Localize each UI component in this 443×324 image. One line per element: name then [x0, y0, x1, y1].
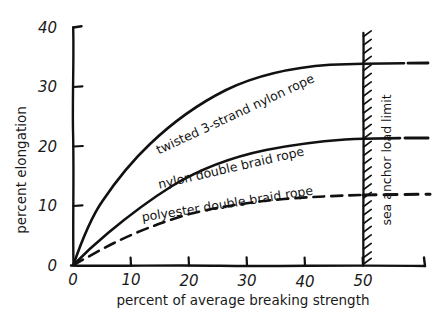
y-tick-label-0: 0 — [47, 257, 57, 275]
rope-elongation-chart: 40 30 20 10 0 0 10 20 30 40 50 percent o… — [0, 0, 443, 324]
chart-figure: 40 30 20 10 0 0 10 20 30 40 50 percent o… — [0, 0, 443, 324]
curve-twisted-3-strand-plateau — [363, 63, 404, 64]
limit-hatching — [364, 31, 372, 264]
y-axis-title: percent elongation — [13, 106, 29, 234]
sea-anchor-load-limit-label: sea anchor load limit — [379, 94, 394, 225]
x-tick-label-0: 0 — [68, 271, 78, 289]
curve-label-nylon-double-braid-rope: nylon double braid rope — [157, 143, 306, 191]
axis-lines — [71, 26, 425, 266]
y-tick-label-30: 30 — [38, 78, 57, 96]
y-tick-30 — [73, 86, 82, 87]
y-axis-top-cap — [73, 26, 81, 27]
y-tick-label-40: 40 — [38, 19, 57, 37]
x-tick-label-40: 40 — [295, 273, 314, 291]
x-tick-label-50: 50 — [353, 272, 372, 290]
x-tick-label-20: 20 — [179, 272, 198, 290]
sea-anchor-load-limit-marker: sea anchor load limit — [363, 31, 394, 264]
y-axis-ticks — [73, 86, 83, 206]
x-axis-title: percent of average breaking strength — [116, 292, 369, 308]
y-tick-label-20: 20 — [38, 138, 57, 156]
y-tick-label-10: 10 — [38, 197, 57, 215]
y-tick-10 — [73, 205, 82, 206]
curve-polyester-double-braid-tail-dash — [363, 194, 430, 195]
x-tick-label-10: 10 — [121, 271, 140, 289]
x-tick-label-30: 30 — [237, 272, 256, 290]
x-axis-right-cap — [424, 258, 425, 267]
y-tick-20 — [74, 146, 83, 147]
